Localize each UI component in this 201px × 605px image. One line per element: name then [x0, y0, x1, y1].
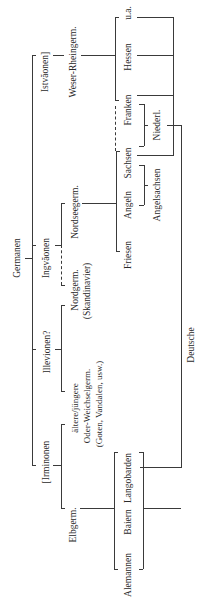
label-angelsachsen: Angelsachsen	[152, 169, 162, 222]
label-friesen: Friesen	[123, 241, 133, 269]
alem-right-tick	[139, 569, 143, 570]
friesen-tick	[116, 251, 120, 252]
franken-right-line	[137, 95, 174, 96]
franken-top-tick	[115, 100, 119, 101]
label-elbgerm: Elbgerm.	[68, 507, 78, 542]
label-deutsche: Deutsche	[186, 327, 196, 362]
illev-bracket	[61, 305, 62, 392]
label-langobarden: Langobarden	[123, 453, 133, 503]
label-irminonen: [Irminonen	[41, 441, 51, 484]
ua-tick	[115, 17, 119, 18]
istv-weser-line	[53, 55, 64, 56]
angelsachsen-bottom	[139, 205, 144, 206]
label-ua: u.a.	[123, 6, 133, 20]
oder-tick	[61, 391, 65, 392]
ingvaeonen-tick	[32, 245, 36, 246]
elbgerm-bracket-left	[114, 452, 115, 569]
nordsee-bracket	[116, 151, 117, 252]
label-germanen: Germanen	[12, 238, 22, 278]
label-oder-1: ältere/jüngere	[70, 383, 80, 432]
label-niederl: Niederl.	[152, 110, 162, 141]
baiern-right-line	[143, 508, 181, 509]
label-nordgerm: Nordgerm.	[70, 269, 80, 310]
lango-right-tick	[139, 452, 143, 453]
angelsachsen-top	[139, 165, 144, 166]
nordgerm-tick	[61, 305, 65, 306]
nordgerm-dashed-end	[61, 285, 65, 286]
angelsachsen-mid	[144, 185, 148, 186]
nordsee-line	[82, 203, 116, 204]
niederl-out	[167, 125, 181, 126]
elbgerm-line	[80, 508, 115, 509]
irminonen-tick	[32, 465, 36, 466]
irmin-tick-right	[53, 465, 61, 466]
niederl-mid	[144, 125, 148, 126]
niederl-top	[139, 104, 144, 105]
nordsee-top	[61, 203, 65, 204]
sachsen-right-line	[137, 155, 174, 156]
hessen-right-line	[137, 55, 174, 56]
label-oder-3: (Goten, Vandalen, usw.)	[94, 361, 104, 447]
label-skandinavier: (Skandinavier)	[82, 263, 92, 319]
franken-sachsen-dashed	[115, 106, 116, 151]
ingv-solid	[61, 203, 62, 245]
label-ingvaeonen: Ingvăonen	[41, 238, 51, 278]
label-nordsee: Nordseegerm.	[70, 185, 80, 239]
west-vertical	[173, 17, 174, 155]
label-baiern: Baiern	[123, 509, 133, 534]
deutsche-bottom	[140, 467, 182, 468]
label-weser-rhein: Weser-Rheingerm.	[68, 26, 78, 97]
label-sachsen: Sachsen	[123, 147, 133, 178]
lango-left-tick	[114, 452, 118, 453]
label-oder-2: Oder-Weichselgerm.	[82, 369, 92, 443]
ingv-dashed	[61, 245, 62, 285]
sachsen-tick	[116, 151, 120, 152]
label-alemannen: Alemannen	[123, 553, 133, 597]
oder2-tick	[61, 424, 65, 425]
elbgerm-tick	[61, 508, 65, 509]
root-spine	[32, 55, 33, 466]
irmin-bracket	[61, 424, 62, 509]
istvaeonen-tick	[32, 55, 36, 56]
ua-right-line	[137, 17, 174, 18]
label-illevionen: Illevionen?	[42, 331, 52, 374]
label-istvaeonen: Istvăonen]	[40, 52, 50, 92]
label-hessen: Hessen	[123, 43, 133, 70]
deutsche-vertical	[181, 125, 182, 468]
weser-bracket	[115, 17, 116, 101]
alem-left-tick	[114, 569, 118, 570]
label-franken: Franken	[123, 94, 133, 125]
illevionen-tick	[32, 349, 36, 350]
label-angeln: Angeln	[123, 191, 133, 219]
germanen-tick	[25, 258, 32, 259]
elbgerm-bracket-right	[143, 452, 144, 569]
niederl-bottom	[139, 146, 144, 147]
weser-line	[81, 55, 115, 56]
